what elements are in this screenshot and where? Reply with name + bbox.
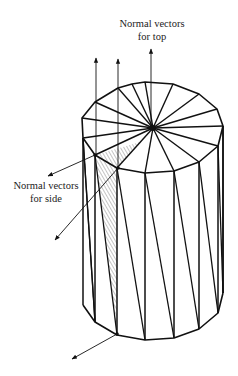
side-normals-label-line1: Normal vectors	[6, 179, 86, 192]
top-spoke	[153, 94, 199, 128]
top-normals-label-line1: Normal vectors	[112, 17, 192, 30]
vertex-point	[116, 166, 120, 170]
diagram: Normal vectors for top Normal vectors fo…	[0, 0, 238, 376]
side-diagonal	[117, 168, 145, 340]
side-normals-label: Normal vectors for side	[6, 179, 86, 205]
top-normals-label: Normal vectors for top	[112, 17, 192, 43]
vertex-point	[115, 332, 119, 336]
top-spoke	[153, 128, 199, 162]
top-spoke	[153, 126, 223, 128]
side-diagonal	[174, 171, 199, 329]
bottom-rim	[83, 293, 223, 340]
bottom-normal-arrow	[72, 334, 117, 359]
side-normals-label-line2: for side	[6, 192, 86, 205]
top-spoke	[153, 128, 174, 171]
side-diagonal	[145, 173, 174, 338]
side-diagonal	[83, 138, 95, 322]
side-diagonal	[199, 162, 218, 313]
top-normals-label-line2: for top	[112, 30, 192, 43]
vertex-point	[93, 153, 97, 157]
top-spoke	[153, 109, 217, 128]
side-normal-arrow	[48, 155, 95, 176]
top-spoke	[153, 128, 218, 146]
